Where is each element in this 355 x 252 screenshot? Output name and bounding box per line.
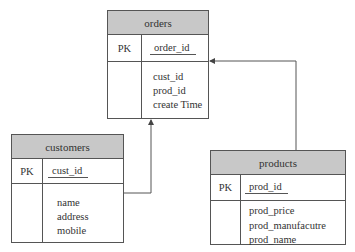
relationship-lines bbox=[0, 0, 355, 252]
relationship-products-orders bbox=[210, 61, 296, 150]
relationship-customers-orders bbox=[124, 120, 151, 193]
